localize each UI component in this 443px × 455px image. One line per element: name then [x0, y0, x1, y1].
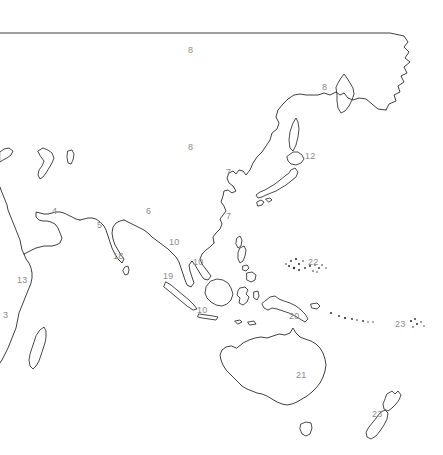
- island-dot: [330, 312, 332, 314]
- coastline-arabia: [24, 212, 80, 254]
- coastline-shikoku: [266, 198, 272, 202]
- island-dot-group-fiji-dots: [410, 318, 425, 328]
- label-13-east-africa: 13: [17, 276, 27, 285]
- label-10-indochina-s: 10: [193, 258, 203, 267]
- island-dot: [288, 265, 290, 267]
- label-10-indonesia: 10: [197, 306, 207, 315]
- island-dot: [367, 321, 368, 322]
- label-8-kamchatka: 8: [322, 83, 327, 92]
- map-canvas: 888127746510181022191320103232123: [0, 0, 443, 455]
- label-6-china: 6: [146, 207, 151, 216]
- island-dot: [410, 320, 412, 322]
- island-dot: [318, 267, 320, 269]
- coastline-honshu: [256, 168, 298, 198]
- coastline-tasmania: [300, 422, 312, 436]
- coastline-new-guinea: [262, 296, 308, 322]
- coastline-sri-lanka: [123, 266, 129, 275]
- island-dot: [285, 263, 287, 265]
- coastline-lesser-sunda-2: [248, 321, 256, 325]
- island-dot: [293, 267, 295, 269]
- island-dot: [420, 321, 422, 323]
- label-20-new-guinea: 20: [289, 312, 299, 321]
- label-3-africa: 3: [3, 311, 8, 320]
- label-23-pacific-islands: 23: [395, 320, 405, 329]
- island-dot: [412, 326, 414, 328]
- coastline-lesser-sunda-1: [235, 320, 242, 324]
- coastline-east-africa: [0, 254, 32, 363]
- island-dots-layer: [285, 258, 424, 328]
- label-7-south-korea: 7: [226, 212, 231, 221]
- coastline-madagascar: [29, 327, 46, 369]
- island-dot: [344, 317, 346, 319]
- island-dot: [290, 260, 292, 262]
- coastline-aral-sea: [67, 150, 74, 164]
- coastline-borneo: [205, 279, 233, 306]
- island-dot: [312, 270, 314, 272]
- island-dot: [423, 325, 424, 326]
- coastline-sakhalin: [289, 118, 299, 151]
- island-dot: [356, 319, 358, 321]
- coastline-sulawesi: [237, 287, 249, 305]
- coastline-africa-horn: [0, 187, 24, 254]
- coastline-halmahera: [254, 291, 259, 300]
- island-dot-group-micronesia-dots: [285, 258, 326, 273]
- coastline-caspian-sea: [38, 148, 54, 179]
- coastline-taiwan: [236, 236, 242, 248]
- label-5-pakistan: 5: [97, 221, 102, 230]
- island-dot: [338, 315, 340, 317]
- coastline-mindanao: [247, 272, 256, 282]
- coastline-russian-far-east: [213, 92, 386, 243]
- coastline-new-britain: [311, 303, 320, 309]
- island-dot: [414, 318, 416, 320]
- island-dot: [416, 323, 418, 325]
- map-coastlines: [0, 0, 443, 455]
- island-dot: [325, 267, 326, 268]
- label-21-australia: 21: [296, 371, 306, 380]
- label-4-middle-east: 4: [52, 207, 57, 216]
- island-dot: [302, 260, 304, 262]
- label-8-north-asia: 8: [188, 46, 193, 55]
- label-22-micronesia: 22: [308, 258, 318, 267]
- label-23-new-zealand: 23: [372, 410, 382, 419]
- label-8-central-asia: 8: [188, 143, 193, 152]
- island-dot: [295, 258, 297, 260]
- island-dot: [304, 267, 306, 269]
- island-dot: [372, 321, 373, 322]
- label-7-north-korea: 7: [226, 168, 231, 177]
- coastline-hokkaido: [287, 152, 304, 165]
- coastline-nz-north-island: [383, 391, 401, 411]
- coastline-visayas: [243, 265, 249, 271]
- island-dot: [298, 263, 300, 265]
- island-dot: [316, 271, 317, 272]
- coastline-black-sea: [0, 148, 13, 162]
- island-dot: [362, 320, 364, 322]
- island-dot-group-melanesia-dots: [330, 312, 374, 323]
- coastline-kyushu: [257, 200, 264, 206]
- label-19-malaysia: 19: [163, 272, 173, 281]
- label-18-india: 18: [113, 252, 123, 261]
- island-dot: [321, 264, 323, 266]
- island-dot: [351, 318, 353, 320]
- label-12-japan: 12: [305, 152, 315, 161]
- coastline-australia: [220, 328, 326, 405]
- island-dot: [298, 269, 300, 271]
- label-10-indochina-n: 10: [169, 238, 179, 247]
- coastline-luzon: [238, 246, 246, 263]
